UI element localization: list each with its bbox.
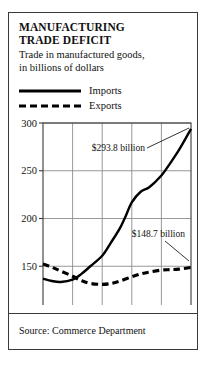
svg-text:$293.8 billion: $293.8 billion bbox=[92, 143, 146, 153]
svg-text:$148.7 billion: $148.7 billion bbox=[132, 229, 186, 239]
svg-text:250: 250 bbox=[21, 165, 37, 176]
chart-card: MANUFACTURING TRADE DEFICIT Trade in man… bbox=[8, 12, 198, 350]
chart-legend: Imports Exports bbox=[19, 83, 197, 113]
trade-line-chart: 100150200250300'81'82'83'84'85'86$293.8 … bbox=[9, 115, 199, 305]
chart-plot-area: 100150200250300'81'82'83'84'85'86$293.8 … bbox=[9, 115, 197, 305]
subtitle-line-2: in billions of dollars bbox=[19, 62, 197, 75]
legend-item-exports: Exports bbox=[19, 98, 197, 113]
legend-item-imports: Imports bbox=[19, 83, 197, 98]
svg-text:150: 150 bbox=[21, 261, 37, 272]
legend-label-exports: Exports bbox=[89, 100, 122, 111]
svg-text:200: 200 bbox=[21, 213, 37, 224]
subtitle-block: Trade in manufactured goods, in billions… bbox=[19, 49, 197, 74]
source-note: Source: Commerce Department bbox=[19, 325, 146, 336]
subtitle-line-1: Trade in manufactured goods, bbox=[19, 49, 197, 62]
page-title-line-2: TRADE DEFICIT bbox=[19, 34, 197, 47]
legend-label-imports: Imports bbox=[89, 85, 122, 96]
legend-swatch-solid-icon bbox=[19, 86, 81, 96]
legend-swatch-dashed-icon bbox=[19, 101, 81, 111]
svg-text:300: 300 bbox=[21, 118, 37, 129]
page-title-line-1: MANUFACTURING bbox=[19, 21, 197, 34]
footer-divider bbox=[9, 313, 197, 314]
title-block: MANUFACTURING TRADE DEFICIT Trade in man… bbox=[9, 13, 197, 74]
